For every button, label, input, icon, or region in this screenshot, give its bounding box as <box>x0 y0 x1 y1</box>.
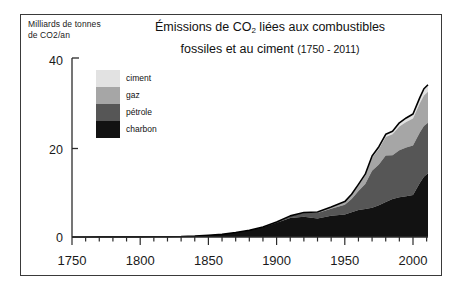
tick-label: 20 <box>49 143 63 157</box>
tick-label: 1900 <box>262 253 291 268</box>
legend-swatch-charbon <box>96 121 120 138</box>
tick-label: 0 <box>56 231 63 245</box>
tick-label: 1850 <box>194 253 223 268</box>
legend-label-petrole: pétrole <box>126 104 152 121</box>
tick-label: 2000 <box>399 253 428 268</box>
tick-label: 1800 <box>126 253 155 268</box>
tick-label: 1950 <box>330 253 359 268</box>
tick-label: 40 <box>49 54 63 68</box>
chart-canvas: 02040175018001850190019502000 <box>0 0 462 291</box>
legend-swatch-ciment <box>96 70 120 87</box>
legend-label-gaz: gaz <box>126 87 140 104</box>
legend-swatch-gaz <box>96 87 120 104</box>
tick-label: 1750 <box>58 253 87 268</box>
legend-swatch-petrole <box>96 104 120 121</box>
legend-label-ciment: ciment <box>126 70 151 87</box>
legend-label-charbon: charbon <box>126 121 157 138</box>
